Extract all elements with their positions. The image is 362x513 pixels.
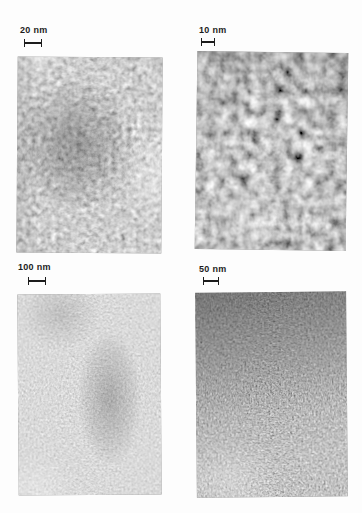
micrograph-image — [16, 56, 162, 253]
scale-bar-icon — [24, 39, 42, 47]
scale-label: 100 nm — [18, 262, 51, 272]
noise-texture — [195, 51, 349, 251]
noise-texture — [16, 56, 162, 253]
micrograph-image — [195, 51, 349, 251]
noise-texture — [17, 294, 161, 496]
scale-label: 10 nm — [199, 25, 227, 35]
figure-page: 20 nm 10 nm — [0, 0, 362, 513]
scale-bar-icon — [203, 277, 219, 285]
scale-label: 20 nm — [20, 25, 48, 35]
scale-bar-icon — [201, 38, 215, 46]
micrograph-image — [17, 294, 161, 496]
scale-label: 50 nm — [199, 264, 227, 274]
noise-texture — [195, 291, 348, 497]
scale-bar-icon — [28, 277, 46, 285]
micrograph-image — [195, 291, 348, 497]
